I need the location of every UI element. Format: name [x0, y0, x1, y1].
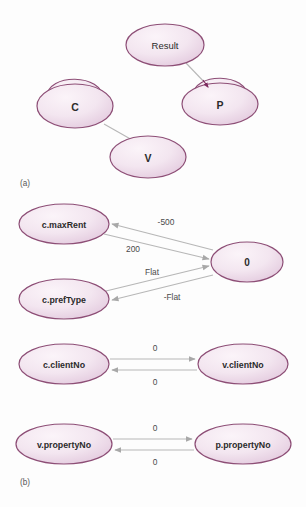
edge-pprop-to-vprop: 0 — [115, 450, 194, 467]
edge-zero-to-maxrent-label: -500 — [158, 217, 175, 227]
edge-clientno-to-vclientno: 0 — [110, 343, 195, 359]
node-v-label: V — [144, 152, 151, 164]
node-zero[interactable]: 0 — [211, 242, 283, 282]
edge-zero-to-preftype-label: -Flat — [164, 292, 181, 302]
node-p[interactable]: P — [182, 83, 258, 125]
node-v-clientno-label: v.clientNo — [222, 360, 264, 370]
edge-preftype-to-zero-label: Flat — [145, 267, 160, 277]
edge-maxrent-to-zero: 200 — [104, 234, 209, 259]
node-c-preftype-label: c.prefType — [42, 295, 86, 305]
node-c-label: C — [71, 101, 79, 113]
node-result[interactable]: Result — [126, 24, 204, 66]
edge-vprop-to-pprop-label: 0 — [153, 423, 158, 433]
panel-b-caption: (b) — [20, 478, 30, 487]
node-c-clientno-label: c.clientNo — [43, 360, 86, 370]
edge-vclientno-to-clientno: 0 — [112, 370, 197, 387]
node-v-propertyno[interactable]: v.propertyNo — [16, 424, 112, 464]
node-c-preftype[interactable]: c.prefType — [19, 279, 109, 319]
diagram-canvas: Result C P V (a) -500 — [0, 0, 306, 507]
node-p-propertyno[interactable]: p.propertyNo — [195, 424, 291, 464]
node-c-maxrent-label: c.maxRent — [42, 220, 87, 230]
node-result-label: Result — [152, 40, 179, 51]
node-p-propertyno-label: p.propertyNo — [215, 440, 271, 450]
constraint-graph-figure: Result C P V (a) -500 — [0, 0, 306, 507]
node-p-label: P — [216, 99, 223, 111]
node-c-maxrent[interactable]: c.maxRent — [19, 204, 109, 244]
node-zero-label: 0 — [244, 257, 250, 268]
panel-a: Result C P V (a) — [20, 24, 258, 188]
edge-vclientno-to-clientno-label: 0 — [153, 377, 158, 387]
edge-vprop-to-pprop: 0 — [113, 423, 192, 439]
edge-maxrent-to-zero-label: 200 — [126, 244, 140, 254]
panel-b: -500 200 Flat -Flat 0 0 — [16, 204, 291, 487]
panel-a-caption: (a) — [20, 179, 30, 188]
node-c-clientno[interactable]: c.clientNo — [19, 344, 109, 384]
edge-pprop-to-vprop-label: 0 — [153, 457, 158, 467]
node-v-propertyno-label: v.propertyNo — [37, 440, 92, 450]
node-v[interactable]: V — [110, 136, 186, 178]
edge-zero-to-preftype: -Flat — [112, 275, 213, 302]
node-v-clientno[interactable]: v.clientNo — [198, 344, 288, 384]
edge-clientno-to-vclientno-label: 0 — [153, 343, 158, 353]
node-c[interactable]: C — [37, 84, 113, 128]
edge-preftype-to-zero: Flat — [106, 266, 209, 291]
